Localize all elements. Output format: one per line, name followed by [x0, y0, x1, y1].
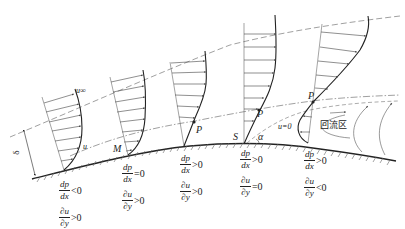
velocity-profile-1: [24, 89, 82, 175]
dudy-num: ∂u: [122, 190, 133, 201]
dpdx-num: dp: [59, 180, 70, 191]
dudy-num: ∂u: [304, 177, 315, 188]
dpdx-den: dx: [305, 161, 314, 171]
alpha-label: α: [258, 132, 263, 142]
recirculation-zone-label: 回流区: [320, 121, 347, 130]
point-P2-label: P: [257, 109, 263, 119]
u-zero-label: u=0: [278, 123, 291, 131]
dpdx-den: dx: [181, 165, 190, 175]
dudy-den: ∂y: [305, 188, 313, 198]
dpdx-num: dp: [180, 154, 191, 165]
point-P3-label: P: [308, 91, 314, 101]
dudy-relation: =0: [252, 182, 263, 192]
dpdx-den: dx: [60, 191, 69, 201]
dpdx-num: dp: [304, 150, 315, 161]
wall-hatching: [37, 143, 390, 182]
dudy-relation: >0: [134, 196, 145, 206]
dudy-relation: <0: [316, 183, 327, 193]
dpdx-relation: =0: [134, 169, 145, 179]
dpdx-relation: >0: [252, 155, 263, 165]
dudy-num: ∂u: [59, 207, 70, 218]
dudy-den: ∂y: [181, 192, 189, 202]
delta-dimension: [24, 131, 35, 175]
dudy-den: ∂y: [123, 201, 131, 211]
dpdx-relation: <0: [71, 186, 82, 196]
dudy-den: ∂y: [60, 218, 68, 228]
delta-label: δ: [12, 150, 21, 154]
dpdx-relation: >0: [316, 156, 327, 166]
u-label: u: [83, 143, 87, 151]
dudy-relation: >0: [192, 187, 203, 197]
station-5-conditions: dpdx >0 ∂u∂y <0: [304, 150, 327, 204]
dpdx-den: dx: [123, 174, 132, 184]
station-1-conditions: dpdx <0 ∂u∂y >0: [59, 180, 82, 229]
point-P1-label: P: [196, 125, 202, 135]
station-2-conditions: dpdx =0 ∂u∂y >0: [122, 163, 145, 217]
dpdx-relation: >0: [192, 160, 203, 170]
point-M-label: M: [113, 144, 121, 154]
dpdx-num: dp: [240, 149, 251, 160]
velocity-profile-4: [244, 15, 276, 144]
dudy-num: ∂u: [240, 176, 251, 187]
dudy-relation: >0: [71, 213, 82, 223]
station-3-conditions: dpdx >0 ∂u∂y >0: [180, 154, 203, 208]
station-4-conditions: dpdx >0 ∂u∂y =0: [240, 149, 263, 203]
dpdx-den: dx: [241, 160, 250, 170]
dudy-num: ∂u: [180, 181, 191, 192]
u-infinity-label: u∞: [76, 87, 86, 95]
dudy-den: ∂y: [241, 187, 249, 197]
dpdx-num: dp: [122, 163, 133, 174]
separation-point-S-label: S: [233, 132, 238, 142]
